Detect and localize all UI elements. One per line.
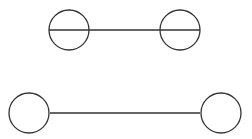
top-figure <box>49 10 200 50</box>
bottom-figure <box>9 93 241 133</box>
right-circle <box>201 93 241 133</box>
left-circle <box>9 93 49 133</box>
diagram-canvas <box>0 0 252 139</box>
